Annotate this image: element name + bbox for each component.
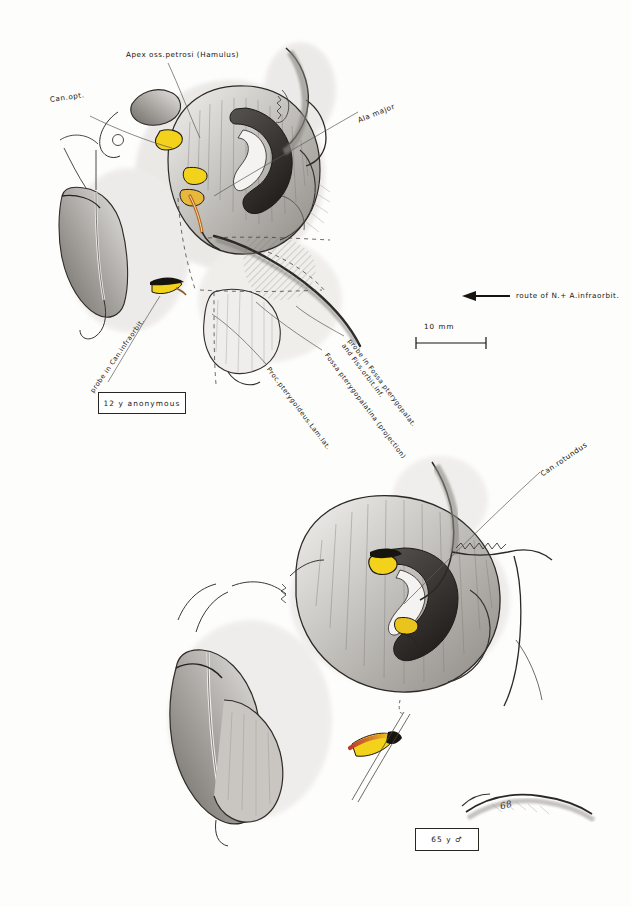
label-apex-oss-petrosi: Apex oss.petrosi (Hamulus) xyxy=(126,50,239,59)
legend-route-label: route of N.+ A.infraorbit. xyxy=(516,291,619,300)
foramen-small xyxy=(113,135,124,146)
mandible-tip-lower xyxy=(462,794,490,806)
orbital-rim-left xyxy=(60,135,98,144)
lower-specimen-drawing xyxy=(168,456,594,846)
probe-shaft-lower-b xyxy=(358,714,410,802)
zygomatic-strut-left xyxy=(64,148,86,188)
specimen-box-upper: 12 y anonymous xyxy=(98,392,186,414)
orbital-rim-lower-a xyxy=(178,584,216,620)
probe-dashed-lower xyxy=(399,700,404,713)
scale-bar xyxy=(416,337,486,349)
canalis-rotundus-highlight-upper xyxy=(183,167,207,184)
occipital-detail-lower xyxy=(516,640,542,700)
mandible-shadow-lower xyxy=(468,801,594,820)
probe-tip-lower xyxy=(350,731,402,756)
anatomical-drawing xyxy=(0,0,631,907)
upper-specimen-drawing xyxy=(59,42,360,385)
route-arrow-icon xyxy=(462,291,510,301)
canalis-rotundus-highlight-lower xyxy=(394,617,418,634)
specimen-box-lower: 65 y ♂ xyxy=(415,828,479,851)
legend-graphics xyxy=(416,291,510,349)
scale-bar-label: 10 mm xyxy=(424,322,454,331)
tuberosity-lower xyxy=(216,820,229,846)
orbital-rim-lower-c xyxy=(232,582,286,594)
illustration-sheet: Apex oss.petrosi (Hamulus) Can.opt. Ala … xyxy=(0,0,631,907)
